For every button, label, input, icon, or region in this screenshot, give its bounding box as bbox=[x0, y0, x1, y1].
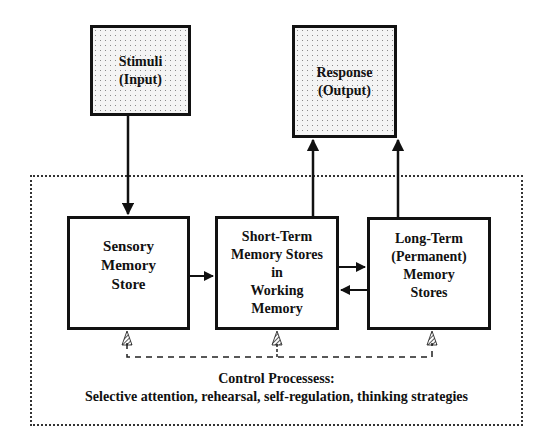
control-arrow-sensory bbox=[122, 331, 132, 345]
control-arrow-stm bbox=[272, 331, 282, 345]
control-arrow-ltm bbox=[427, 331, 437, 345]
control-processes-list: Selective attention, rehearsal, self-reg… bbox=[30, 388, 523, 406]
control-processes-title: Control Processess: bbox=[30, 370, 523, 388]
